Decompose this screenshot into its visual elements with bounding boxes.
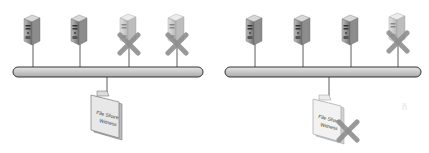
server-failed-icon xyxy=(120,14,138,53)
file-share-witness-failed-icon: File Share Witness xyxy=(313,95,357,144)
network-bus xyxy=(13,67,203,77)
file-share-witness-icon: File Share Witness xyxy=(91,91,122,140)
server-icon xyxy=(246,15,262,45)
server-icon xyxy=(24,15,40,45)
server-failed-icon xyxy=(168,14,186,53)
diagram-right: File Share Witness ñ xyxy=(225,13,421,144)
diagram-left: File Share Witness xyxy=(13,14,203,140)
server-icon xyxy=(294,15,310,45)
server-failed-icon xyxy=(389,13,407,51)
server-icon xyxy=(71,15,87,45)
network-bus xyxy=(225,67,421,77)
server-icon xyxy=(342,15,358,45)
faint-mark: ñ xyxy=(402,102,407,112)
